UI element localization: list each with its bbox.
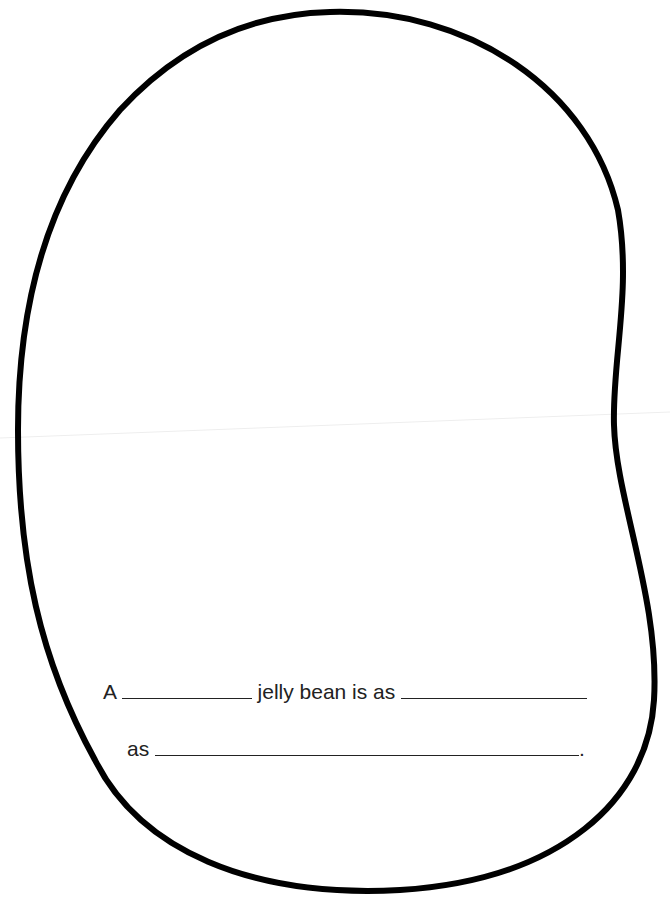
blank-quality[interactable]	[401, 697, 587, 699]
sentence-middle: jelly bean is as	[258, 680, 396, 703]
jelly-bean-outline	[0, 0, 670, 900]
sentence-line-2: as .	[127, 737, 585, 761]
fold-line	[0, 412, 670, 438]
blank-adjective[interactable]	[122, 697, 252, 699]
sentence-line-1: A jelly bean is as	[103, 680, 587, 704]
sentence-prefix-a: A	[103, 680, 116, 703]
blank-comparison[interactable]	[155, 754, 579, 756]
sentence-prefix-as: as	[127, 737, 149, 760]
sentence-period: .	[579, 737, 585, 760]
